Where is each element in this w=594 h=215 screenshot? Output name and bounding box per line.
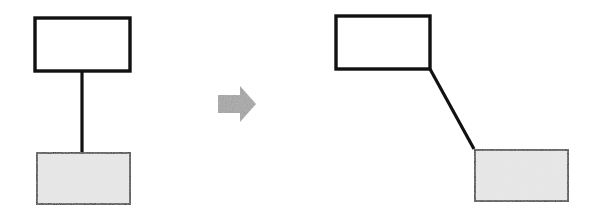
arrow-right-icon [218,86,256,122]
after-connector [430,69,474,149]
after-top-box [336,16,430,69]
before-bottom-box [36,152,131,205]
after-group [336,16,569,202]
diagram-canvas [0,0,594,215]
before-group [35,18,131,205]
after-bottom-box [474,149,569,202]
before-top-box [35,18,130,71]
